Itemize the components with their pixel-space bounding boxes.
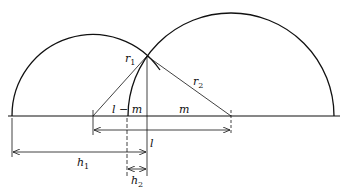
label-r2: r2 xyxy=(193,76,203,90)
diagram-canvas: r1 r2 l − m m l h1 h2 xyxy=(0,0,346,192)
label-l-minus-m: l − m xyxy=(112,104,142,115)
label-h1: h1 xyxy=(77,157,89,171)
label-r1: r1 xyxy=(125,53,135,67)
diagram-geometry xyxy=(0,0,346,192)
label-h2: h2 xyxy=(131,175,143,189)
label-m: m xyxy=(179,104,189,115)
label-l: l xyxy=(150,138,154,149)
